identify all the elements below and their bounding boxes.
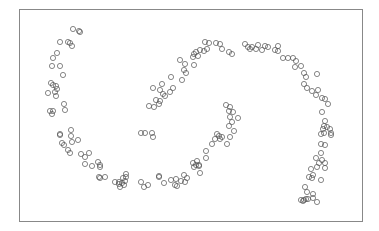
scatter-chart [0, 0, 379, 231]
plot-background [0, 0, 379, 231]
